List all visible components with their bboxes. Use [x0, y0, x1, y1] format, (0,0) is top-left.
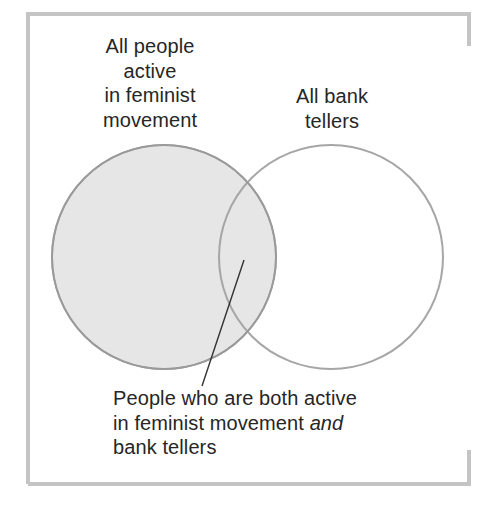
bank-tellers-set-label: All bank tellers	[296, 84, 368, 133]
intersection-label-line-2: in feminist movement and	[113, 411, 357, 436]
feminist-label-line-3: in feminist	[103, 83, 197, 108]
feminist-label-line-1: All people	[103, 34, 197, 59]
bank-tellers-label-line-2: tellers	[296, 109, 368, 134]
bank-tellers-label-line-1: All bank	[296, 84, 368, 109]
feminist-set-label: All people active in feminist movement	[103, 34, 197, 132]
feminist-movement-circle	[52, 145, 276, 369]
intersection-label-line-2-text: in feminist movement	[113, 412, 310, 434]
feminist-label-line-2: active	[103, 59, 197, 84]
feminist-label-line-4: movement	[103, 108, 197, 133]
intersection-label: People who are both active in feminist m…	[113, 386, 357, 460]
intersection-label-line-1: People who are both active	[113, 386, 357, 411]
intersection-label-emphasis: and	[310, 412, 344, 434]
intersection-label-line-3: bank tellers	[113, 435, 357, 460]
